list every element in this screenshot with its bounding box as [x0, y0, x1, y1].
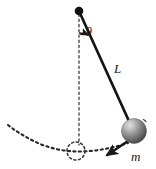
mass-label: m: [131, 149, 140, 164]
bob-highlight-icon: [144, 120, 147, 122]
pendulum-diagram-canvas: θ L m: [0, 0, 156, 169]
pendulum-figure: θ L m: [0, 0, 156, 169]
trajectory-dashed-arc: [8, 125, 128, 152]
angle-label: θ: [86, 25, 92, 39]
length-label: L: [113, 61, 121, 76]
pivot-point: [75, 7, 84, 16]
pendulum-bob: [122, 119, 147, 144]
